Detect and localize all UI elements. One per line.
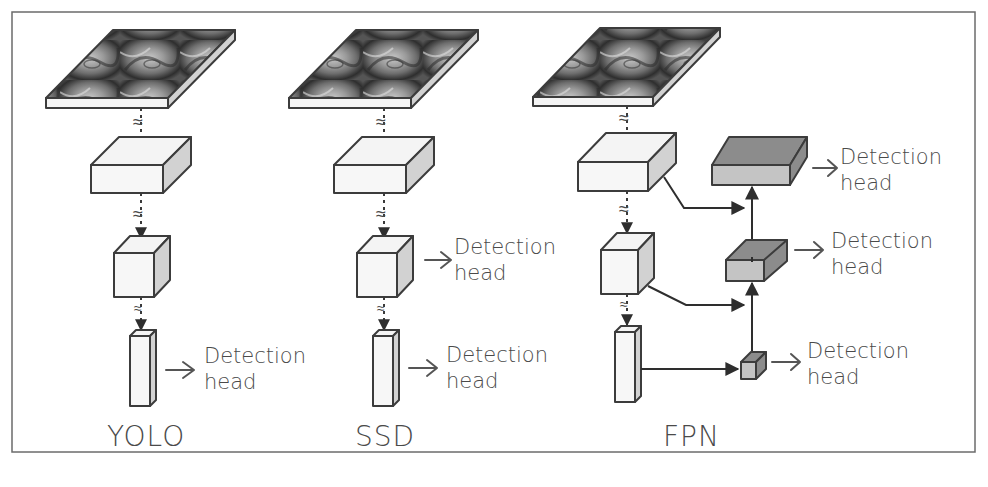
figure-canvas: ≈ ≈ ≈ Detection head YOLO bbox=[0, 0, 988, 487]
cube-feature-map bbox=[114, 236, 170, 297]
detection-head-sublabel: head bbox=[204, 370, 256, 394]
detection-head-label: Detection bbox=[446, 343, 548, 367]
downsample-icon: ≈ bbox=[377, 300, 385, 316]
downsample-icon: ≈ bbox=[376, 111, 386, 132]
downsample-icon: ≈ bbox=[376, 203, 386, 224]
detection-head-label: Detection bbox=[807, 339, 909, 363]
narrow-feature-map bbox=[615, 326, 641, 402]
column-title-yolo: YOLO bbox=[107, 420, 185, 453]
narrow-feature-map bbox=[130, 330, 156, 406]
detection-head-sublabel: head bbox=[446, 369, 498, 393]
detection-head-sublabel: head bbox=[840, 171, 892, 195]
detection-head-sublabel: head bbox=[831, 255, 883, 279]
column-title-ssd: SSD bbox=[355, 420, 415, 453]
downsample-icon: ≈ bbox=[619, 198, 629, 219]
architecture-diagram: ≈ ≈ ≈ Detection head YOLO bbox=[0, 0, 988, 487]
downsample-icon: ≈ bbox=[134, 300, 142, 316]
cube-feature-map bbox=[357, 236, 413, 297]
detection-head-sublabel: head bbox=[454, 261, 506, 285]
downsample-icon: ≈ bbox=[620, 296, 628, 312]
cube-feature-map bbox=[601, 233, 654, 294]
downsample-icon: ≈ bbox=[133, 203, 143, 224]
detection-head-label: Detection bbox=[454, 235, 556, 259]
detection-head-sublabel: head bbox=[807, 365, 859, 389]
downsample-icon: ≈ bbox=[619, 107, 629, 128]
column-title-fpn: FPN bbox=[663, 420, 720, 453]
top-merged-map bbox=[712, 137, 807, 185]
narrow-feature-map bbox=[373, 330, 399, 406]
detection-head-label: Detection bbox=[840, 145, 942, 169]
detection-head-label: Detection bbox=[204, 344, 306, 368]
detection-head-label: Detection bbox=[831, 229, 933, 253]
downsample-icon: ≈ bbox=[133, 111, 143, 132]
